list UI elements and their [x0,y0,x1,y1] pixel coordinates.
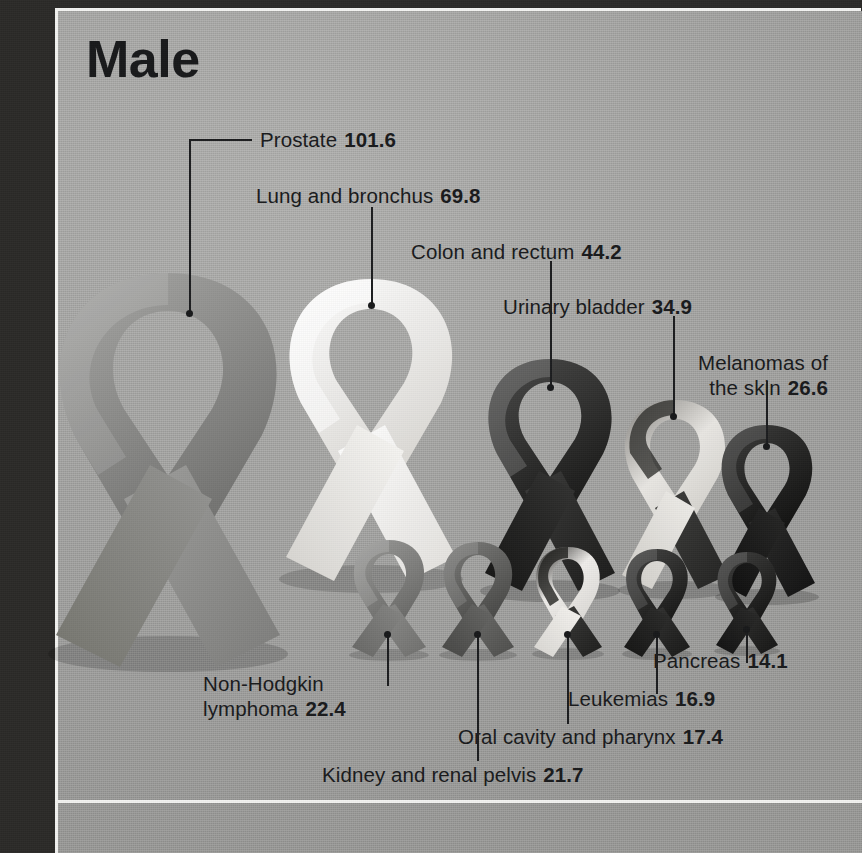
leader-line-lymphoma [387,636,389,686]
page-title: Male [86,33,200,85]
leader-dot-lung [368,302,375,309]
leader-dot-oral [564,631,571,638]
label-prostate-value: 101.6 [344,128,396,151]
label-bladder: Urinary bladder34.9 [503,294,692,319]
label-kidney-text: Kidney and renal pelvis [322,763,536,786]
label-leukemias-text: Leukemias [568,687,668,710]
leader-dot-prostate [186,310,193,317]
label-kidney-value: 21.7 [543,763,583,786]
leader-line-oral [567,636,569,724]
leader-line-prostate-horizontal [189,139,252,141]
label-bladder-text: Urinary bladder [503,295,645,318]
label-melanoma-value: 26.6 [788,376,828,399]
leader-line-leukemias [656,636,658,694]
label-leukemias: Leukemias16.9 [568,686,715,711]
label-oral-text: Oral cavity and pharynx [458,725,676,748]
label-oral: Oral cavity and pharynx17.4 [458,724,723,749]
leader-line-pancreas [746,631,748,663]
bottom-section-divider [58,800,862,803]
leader-dot-lymphoma [384,631,391,638]
label-leukemias-value: 16.9 [675,687,715,710]
label-colon-text: Colon and rectum [411,240,574,263]
leader-line-colon [550,261,552,387]
label-prostate: Prostate101.6 [260,127,396,152]
leader-line-melanoma [766,381,768,446]
label-oral-value: 17.4 [683,725,723,748]
label-lung: Lung and bronchus69.8 [256,183,481,208]
leader-line-prostate-vertical [189,139,191,314]
label-lung-value: 69.8 [440,184,480,207]
label-colon: Colon and rectum44.2 [411,239,622,264]
leader-dot-pancreas [743,626,750,633]
label-lung-text: Lung and bronchus [256,184,433,207]
label-lymphoma-value: 22.4 [305,697,345,720]
leader-line-bladder [673,316,675,416]
label-kidney: Kidney and renal pelvis21.7 [322,762,584,787]
label-colon-value: 44.2 [581,240,621,263]
leader-dot-leukemias [653,631,660,638]
ribbon-chart-stage: Male [58,11,862,853]
leader-dot-kidney [474,631,481,638]
label-lymphoma-line2: lymphoma [203,697,298,720]
ribbon-lymphoma [343,535,435,663]
label-bladder-value: 34.9 [652,295,692,318]
leader-dot-melanoma [763,443,770,450]
label-melanoma-line1: Melanomas of [698,351,828,374]
label-prostate-text: Prostate [260,128,337,151]
leader-line-lung [371,207,373,305]
infographic-poster: Male [0,0,862,853]
leader-line-kidney [477,636,479,761]
leader-dot-bladder [670,413,677,420]
leader-dot-colon [547,384,554,391]
